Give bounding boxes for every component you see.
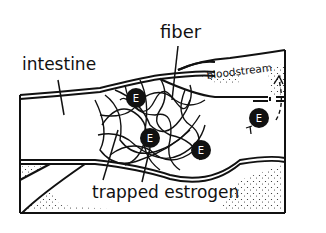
intestine-fiber-diagram: E E E E intestine fiber bloodstream trap… bbox=[0, 0, 326, 233]
svg-text:E: E bbox=[147, 133, 153, 144]
svg-text:E: E bbox=[256, 113, 262, 124]
svg-text:E: E bbox=[133, 93, 139, 104]
intestine-pointer bbox=[58, 80, 64, 115]
estrogen-molecule: E bbox=[140, 128, 160, 148]
free-estrogen-molecule: E bbox=[246, 108, 269, 134]
label-trapped-estrogen: trapped estrogen bbox=[92, 182, 239, 202]
estrogen-molecule: E bbox=[126, 88, 146, 108]
label-fiber: fiber bbox=[160, 21, 202, 42]
estrogen-molecule: E bbox=[191, 140, 211, 160]
label-intestine: intestine bbox=[22, 54, 96, 74]
svg-text:E: E bbox=[198, 145, 204, 156]
fiber-tangle bbox=[95, 78, 205, 170]
